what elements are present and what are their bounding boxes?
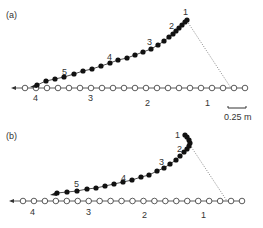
open-circle-marker — [141, 198, 147, 204]
filled-circle-marker — [129, 177, 134, 182]
open-circle-marker — [66, 85, 72, 91]
open-circle-marker — [44, 85, 50, 91]
open-circle-marker — [130, 198, 136, 204]
open-circle-marker — [20, 198, 26, 204]
filled-circle-marker — [146, 172, 151, 177]
filled-circle-marker — [111, 181, 116, 186]
open-row-label: 3 — [86, 207, 91, 217]
filled-circle-marker — [34, 82, 39, 87]
filled-curve-label: 4 — [107, 52, 112, 62]
filled-circle-marker — [155, 42, 160, 47]
open-circle-marker — [231, 85, 237, 91]
open-circle-marker — [220, 85, 226, 91]
filled-circle-marker — [148, 46, 153, 51]
arrow-head-icon — [11, 86, 16, 90]
filled-circle-marker — [161, 38, 166, 43]
open-circle-marker — [132, 85, 138, 91]
filled-circle-marker — [64, 189, 69, 194]
filled-curve-label: 4 — [121, 173, 126, 183]
panel-b: 432112345 — [9, 130, 245, 220]
filled-circle-marker — [80, 68, 85, 73]
open-row-label: 4 — [30, 207, 35, 217]
open-circle-marker — [64, 198, 70, 204]
open-row-label: 3 — [88, 93, 93, 103]
filled-circle-marker — [177, 153, 182, 158]
filled-curve-label: 2 — [169, 21, 174, 31]
filled-curve-label: 5 — [62, 67, 67, 77]
open-row-label: 2 — [142, 210, 147, 220]
panel-a-label: (a) — [6, 10, 17, 20]
open-circle-marker — [239, 198, 245, 204]
filled-curve-label: 1 — [175, 130, 180, 140]
dotted-connector — [187, 21, 231, 88]
open-row-label: 2 — [145, 98, 150, 108]
filled-circle-marker — [52, 76, 57, 81]
open-circle-marker — [165, 85, 171, 91]
filled-circle-marker — [98, 63, 103, 68]
filled-circle-marker — [102, 183, 107, 188]
open-circle-marker — [187, 85, 193, 91]
filled-circle-marker — [140, 49, 145, 54]
filled-curve-label: 3 — [147, 37, 152, 47]
open-circle-marker — [242, 85, 248, 91]
filled-circle-marker — [124, 55, 129, 60]
open-circle-marker — [55, 85, 61, 91]
open-circle-marker — [22, 85, 28, 91]
scale-bar: 0.25 m — [224, 106, 252, 122]
open-circle-marker — [97, 198, 103, 204]
open-circle-marker — [110, 85, 116, 91]
diagram-canvas: (a) (b) 432112345 432112345 0.25 m — [0, 0, 263, 228]
open-circle-marker — [53, 198, 59, 204]
filled-circle-marker — [74, 188, 79, 193]
filled-circle-marker — [71, 71, 76, 76]
open-circle-marker — [209, 85, 215, 91]
filled-curve-label: 2 — [177, 144, 182, 154]
panel-a: 432112345 — [11, 7, 248, 108]
open-circle-marker — [86, 198, 92, 204]
open-circle-marker — [99, 85, 105, 91]
open-circle-marker — [31, 198, 37, 204]
open-circle-marker — [108, 198, 114, 204]
open-circle-marker — [174, 198, 180, 204]
filled-circle-marker — [154, 168, 159, 173]
open-row-label: 4 — [33, 93, 38, 103]
filled-circle-marker — [89, 66, 94, 71]
filled-circle-marker — [93, 185, 98, 190]
filled-circle-marker — [115, 57, 120, 62]
open-circle-marker — [198, 85, 204, 91]
open-circle-marker — [152, 198, 158, 204]
open-row-label: 1 — [205, 98, 210, 108]
open-circle-marker — [77, 85, 83, 91]
open-circle-marker — [206, 198, 212, 204]
open-circle-marker — [143, 85, 149, 91]
filled-circle-marker — [182, 132, 187, 137]
open-circle-marker — [217, 198, 223, 204]
open-circle-marker — [176, 85, 182, 91]
filled-circle-marker — [43, 78, 48, 83]
open-circle-marker — [154, 85, 160, 91]
filled-curve-label: 5 — [74, 179, 79, 189]
filled-circle-marker — [184, 17, 189, 22]
open-circle-marker — [163, 198, 169, 204]
open-row-label: 1 — [201, 210, 206, 220]
open-circle-marker — [88, 85, 94, 91]
scale-bar-label: 0.25 m — [224, 112, 252, 122]
filled-circle-marker — [138, 174, 143, 179]
filled-circle-marker — [84, 186, 89, 191]
panel-b-label: (b) — [6, 131, 17, 141]
open-circle-marker — [119, 198, 125, 204]
filled-circle-marker — [54, 190, 59, 195]
arrow-head-icon — [9, 199, 14, 203]
filled-circle-marker — [167, 161, 172, 166]
filled-curve-label: 3 — [159, 157, 164, 167]
open-circle-marker — [75, 198, 81, 204]
open-circle-marker — [121, 85, 127, 91]
filled-curve-label: 1 — [183, 7, 188, 17]
filled-circle-marker — [132, 52, 137, 57]
open-circle-marker — [228, 198, 234, 204]
open-circle-marker — [42, 198, 48, 204]
open-circle-marker — [184, 198, 190, 204]
open-circle-marker — [195, 198, 201, 204]
filled-circle-marker — [173, 157, 178, 162]
dotted-connector — [190, 145, 227, 201]
